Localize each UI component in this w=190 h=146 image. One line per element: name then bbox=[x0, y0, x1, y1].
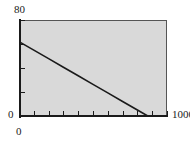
x-axis-min-label: 0 bbox=[16, 126, 22, 137]
x-axis-tick bbox=[137, 111, 138, 115]
x-axis-max-label: 1000 bbox=[172, 109, 190, 120]
line-chart: 80 0 0 1000 bbox=[0, 0, 190, 146]
y-axis-tick bbox=[21, 44, 25, 45]
plot-svg bbox=[19, 20, 167, 116]
data-series-line bbox=[19, 42, 148, 116]
y-axis-max-label: 80 bbox=[14, 4, 25, 15]
x-axis-tick bbox=[123, 111, 124, 115]
y-axis-tick bbox=[21, 68, 25, 69]
x-axis-tick bbox=[167, 111, 168, 115]
x-axis-tick bbox=[78, 111, 79, 115]
x-axis-tick bbox=[34, 111, 35, 115]
x-axis-tick bbox=[19, 111, 20, 115]
x-axis-tick bbox=[152, 111, 153, 115]
y-axis-tick bbox=[21, 20, 25, 21]
x-axis-line bbox=[19, 115, 168, 117]
x-axis-tick bbox=[108, 111, 109, 115]
x-axis-tick bbox=[93, 111, 94, 115]
y-axis-tick bbox=[21, 92, 25, 93]
y-axis-tick bbox=[21, 116, 25, 117]
x-axis-tick bbox=[63, 111, 64, 115]
y-axis-min-label: 0 bbox=[8, 109, 14, 120]
x-axis-tick bbox=[49, 111, 50, 115]
